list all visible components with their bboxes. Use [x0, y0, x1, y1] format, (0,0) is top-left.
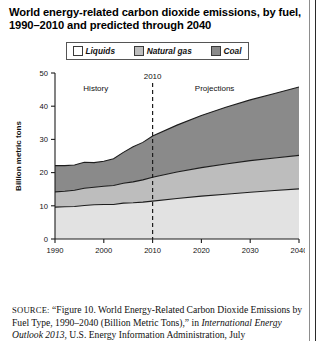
legend-label-liquids: Liquids	[86, 46, 116, 56]
divider-year-label: 2010	[144, 72, 162, 81]
history-label: History	[83, 84, 108, 93]
stacked-area-chart: 01020304050199020002010202020302040Billi…	[9, 65, 305, 270]
legend-swatch-liquids	[73, 46, 83, 56]
y-tick-label: 20	[40, 168, 48, 177]
projections-label: Projections	[195, 84, 235, 93]
y-axis-title: Billion metric tons	[14, 120, 23, 190]
y-tick-label: 30	[40, 135, 48, 144]
y-tick-label: 40	[40, 102, 48, 111]
y-tick-label: 0	[44, 235, 48, 244]
page-rule-inner	[309, 0, 310, 341]
x-tick-label: 2030	[242, 246, 259, 255]
source-line1: “Figure 10. World Energy-Related Carbon …	[50, 304, 290, 315]
x-tick-label: 2020	[193, 246, 210, 255]
x-tick-label: 1990	[47, 246, 64, 255]
figure-page: World energy-related carbon dioxide emis…	[0, 0, 319, 341]
source-note: SOURCE: “Figure 10. World Energy-Related…	[12, 304, 303, 341]
legend-item-natural-gas: Natural gas	[134, 46, 192, 56]
chart-area: 01020304050199020002010202020302040Billi…	[9, 65, 305, 270]
page-title: World energy-related carbon dioxide emis…	[9, 6, 305, 33]
legend-swatch-natural-gas	[134, 46, 144, 56]
chart-legend: Liquids Natural gas Coal	[66, 42, 249, 60]
x-tick-label: 2040	[291, 246, 305, 255]
y-tick-label: 10	[40, 201, 48, 210]
legend-swatch-coal	[211, 46, 221, 56]
legend-item-coal: Coal	[211, 46, 242, 56]
source-line3b: , U.S. Energy Information Administration…	[65, 329, 246, 340]
x-tick-label: 2000	[95, 246, 112, 255]
legend-label-natural-gas: Natural gas	[147, 46, 192, 56]
legend-item-liquids: Liquids	[73, 46, 116, 56]
source-publication-1: International	[201, 317, 252, 328]
legend-label-coal: Coal	[224, 46, 242, 56]
x-tick-label: 2010	[144, 246, 161, 255]
source-prefix: SOURCE:	[12, 305, 50, 315]
y-tick-label: 50	[40, 69, 48, 78]
page-rule-outer	[315, 0, 316, 341]
